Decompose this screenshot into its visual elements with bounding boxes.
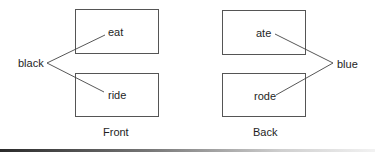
front-connector-to-top — [47, 35, 105, 63]
bottom-rule — [0, 149, 375, 152]
back-connector-from-top — [275, 34, 333, 63]
connector-lines — [0, 0, 375, 152]
back-connector-from-bottom — [276, 63, 333, 95]
front-connector-to-bottom — [47, 63, 104, 92]
